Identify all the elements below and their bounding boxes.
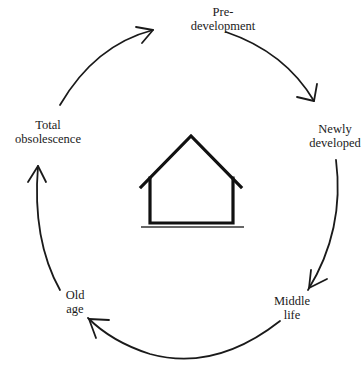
stage-label-pre-development: Pre- development (191, 5, 256, 33)
label-line: Total (15, 118, 81, 132)
label-line: Old (66, 288, 85, 302)
arrow-newly-developed-to-middle-life (308, 160, 338, 290)
arrow-middle-life-to-old-age (88, 318, 280, 359)
label-line: life (274, 308, 310, 322)
house-icon (141, 136, 244, 227)
label-line: developed (309, 136, 360, 150)
label-line: development (191, 19, 256, 33)
label-line: Middle (274, 294, 310, 308)
label-line: Newly (309, 122, 360, 136)
arrow-old-age-to-obsolescence (28, 166, 60, 290)
stage-label-middle-life: Middle life (274, 294, 310, 322)
arrow-obsolescence-to-predevelopment (60, 27, 153, 105)
stage-label-newly-developed: Newly developed (309, 122, 360, 150)
arrow-predevelopment-to-newly-developed (226, 32, 317, 101)
label-line: age (66, 302, 85, 316)
stage-label-total-obsolescence: Total obsolescence (15, 118, 81, 146)
label-line: Pre- (191, 5, 256, 19)
arrowhead-icon (297, 84, 317, 101)
stage-label-old-age: Old age (66, 288, 85, 316)
label-line: obsolescence (15, 132, 81, 146)
